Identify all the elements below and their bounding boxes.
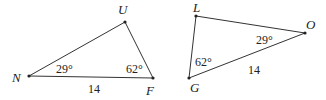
angle-label-f: 62° [126,62,143,76]
vertex-f-dot [151,76,154,79]
vertex-label-o: O [306,17,316,32]
diagram-canvas: N U F 29° 62° 14 L O G 29° 62° 14 [0,0,326,100]
vertex-n-dot [27,74,30,77]
vertex-label-l: L [192,0,200,15]
vertex-u-dot [123,20,126,23]
vertex-label-u: U [118,2,129,17]
angle-label-n: 29° [56,62,73,76]
vertex-label-f: F [145,83,155,98]
triangle-log: L O G 29° 62° 14 [187,0,316,95]
vertex-label-g: G [190,80,200,95]
side-length-nf: 14 [88,82,100,96]
side-length-go: 14 [248,63,260,77]
angle-label-o: 29° [256,33,273,47]
angle-label-g: 62° [195,55,212,69]
triangle-nuf: N U F 29° 62° 14 [11,2,155,98]
vertex-label-n: N [11,70,22,85]
